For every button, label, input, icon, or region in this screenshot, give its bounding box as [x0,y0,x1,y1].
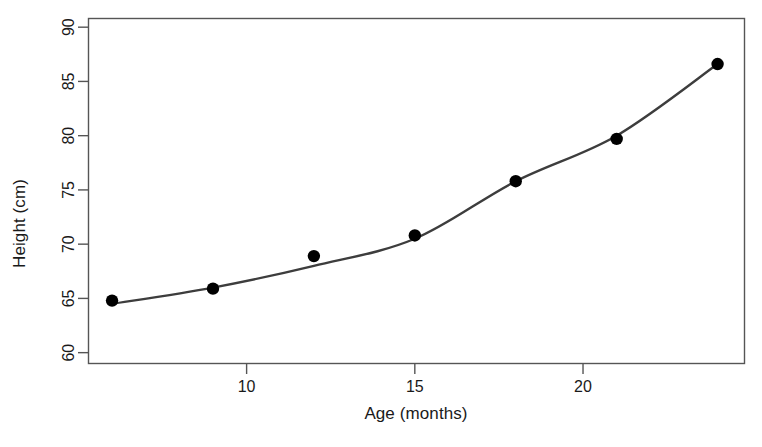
data-point [106,294,118,306]
y-tick-label: 65 [60,289,77,307]
y-tick-label: 90 [60,18,77,36]
data-point [207,282,219,294]
y-tick-label: 85 [60,72,77,90]
y-tick-label: 80 [60,127,77,145]
x-axis-title: Age (months) [88,404,744,424]
chart-container: 60657075808590 101520 Height (cm) Age (m… [0,0,762,447]
y-axis-tick-labels: 60657075808590 [60,18,77,361]
y-tick-label: 70 [60,235,77,253]
y-tick-label: 60 [60,344,77,362]
data-point [308,250,320,262]
data-point [711,58,723,70]
data-point [409,229,421,241]
plot-frame [89,19,745,364]
data-point [610,133,622,145]
y-axis-title: Height (cm) [0,0,40,447]
x-tick-label: 20 [574,378,592,395]
x-tick-label: 10 [238,378,256,395]
x-axis-ticks [247,364,583,375]
scatter-plot-svg: 60657075808590 101520 [0,0,762,447]
y-tick-label: 75 [60,181,77,199]
y-axis-ticks [78,27,89,352]
data-point [510,175,522,187]
x-axis-tick-labels: 101520 [238,378,592,395]
x-tick-label: 15 [406,378,424,395]
